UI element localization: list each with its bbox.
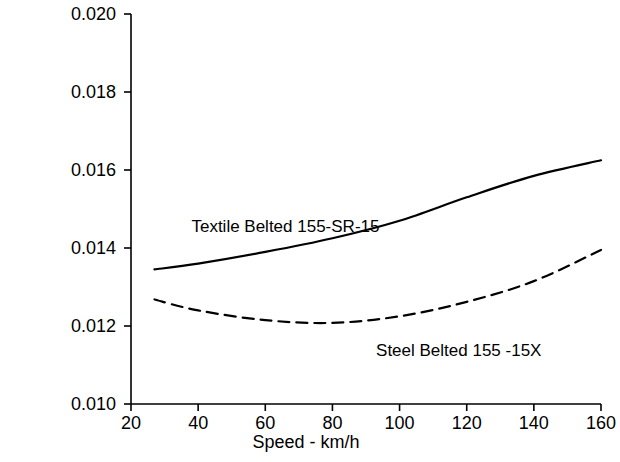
series-annotation-label: Textile Belted 155-SR-15 — [191, 217, 379, 237]
series-annotation-label: Steel Belted 155 -15X — [376, 341, 541, 361]
x-axis-label: Speed - km/h — [0, 432, 612, 453]
series-line-1 — [155, 160, 602, 269]
series-line-2 — [155, 250, 602, 323]
